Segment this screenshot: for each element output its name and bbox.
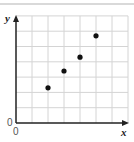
y-origin-label: 0 <box>7 117 13 128</box>
x-axis-label: x <box>121 126 127 138</box>
data-point <box>77 55 82 60</box>
y-axis-label: y <box>5 12 10 24</box>
x-origin-label: 0 <box>13 126 19 137</box>
data-point <box>45 85 50 90</box>
data-point <box>61 68 66 73</box>
scatter-plot <box>0 0 134 142</box>
grid-lines <box>16 16 128 123</box>
data-point <box>93 33 98 38</box>
